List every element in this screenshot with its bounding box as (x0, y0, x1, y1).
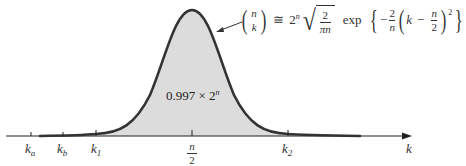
frac-num: 2 (389, 8, 395, 19)
two-over-n: 2 n (389, 8, 395, 33)
left-brace: { (369, 6, 377, 34)
frac-den: n (389, 22, 395, 33)
axis-arrowhead-icon (402, 133, 412, 140)
inner-right-paren: ) (441, 6, 447, 34)
radical-icon: √ (303, 6, 316, 35)
tick-label-ka: ka (25, 142, 35, 158)
binomial-coefficient: n k (251, 8, 257, 33)
inner-minus: − (417, 12, 424, 28)
tick-label-center: n 2 (187, 141, 197, 166)
annotation-arrowhead-icon (216, 27, 224, 32)
half-num: n (431, 8, 437, 19)
right-brace: } (455, 6, 463, 34)
binom-top: n (251, 8, 257, 19)
tick-label-k1-sub: 1 (97, 148, 102, 158)
sqrt-body: 2 πn (316, 5, 335, 35)
tick-label-kb-sub: b (63, 148, 68, 158)
two-power: 2n (289, 12, 300, 28)
inner-left-paren: ( (399, 6, 405, 34)
area-label: 0.997 × 2n (166, 88, 220, 104)
tick-label-k1: k1 (91, 142, 101, 158)
square-root: √ 2 πn (303, 5, 335, 35)
sqrt-fraction: 2 πn (320, 10, 331, 35)
sqrt-num: 2 (323, 10, 329, 21)
tick-label-k2-sub: 2 (288, 148, 293, 158)
right-paren: ) (261, 6, 267, 34)
tick-label-ka-sub: a (31, 148, 36, 158)
area-label-coef: 0.997 × 2 (166, 88, 216, 103)
axis-variable-label: k (406, 142, 412, 155)
tick-label-k2: k2 (282, 142, 292, 158)
center-numerator: n (189, 141, 195, 152)
exp-word: exp (343, 12, 362, 28)
annotation-leader-line (221, 22, 242, 30)
half-den: 2 (431, 22, 437, 33)
left-paren: ( (242, 6, 248, 34)
approx-symbol: ≅ (273, 12, 284, 28)
sqrt-den: πn (320, 24, 331, 35)
square-exp: 2 (448, 8, 452, 17)
tick-label-kb: kb (57, 142, 67, 158)
n-over-two: n 2 (431, 8, 437, 33)
area-label-exp: n (216, 88, 220, 97)
center-denominator: 2 (189, 155, 195, 166)
binom-bottom: k (252, 22, 257, 33)
k-var: k (406, 12, 412, 28)
minus-sign: − (380, 12, 387, 28)
approximation-formula: ( n k ) ≅ 2n √ 2 πn exp { − 2 n ( k − n … (240, 2, 466, 38)
two-exp: n (296, 12, 300, 21)
